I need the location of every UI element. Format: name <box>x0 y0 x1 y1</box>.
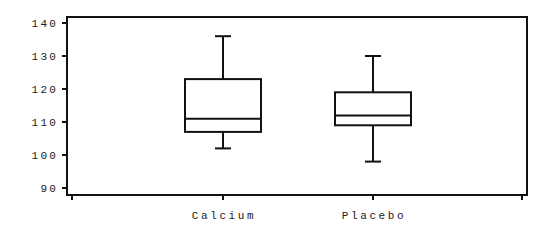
boxes <box>185 36 411 161</box>
y-tick-label: 110 <box>32 117 58 129</box>
box-calcium <box>185 36 261 148</box>
iqr-box <box>185 79 261 132</box>
box-plot-chart: 90100110120130140 CalciumPlacebo <box>0 0 555 230</box>
x-category-label: Calcium <box>192 210 256 222</box>
y-tick-label: 90 <box>40 183 58 195</box>
x-axis: CalciumPlacebo <box>72 195 522 222</box>
iqr-box <box>335 92 411 125</box>
x-category-label: Placebo <box>342 210 406 222</box>
plot-border <box>67 17 527 195</box>
y-tick-label: 130 <box>32 51 58 63</box>
y-axis: 90100110120130140 <box>32 18 67 195</box>
y-tick-label: 120 <box>32 84 58 96</box>
box-placebo <box>335 56 411 162</box>
y-tick-label: 100 <box>32 150 58 162</box>
y-tick-label: 140 <box>32 18 58 30</box>
plot-frame <box>67 17 527 195</box>
